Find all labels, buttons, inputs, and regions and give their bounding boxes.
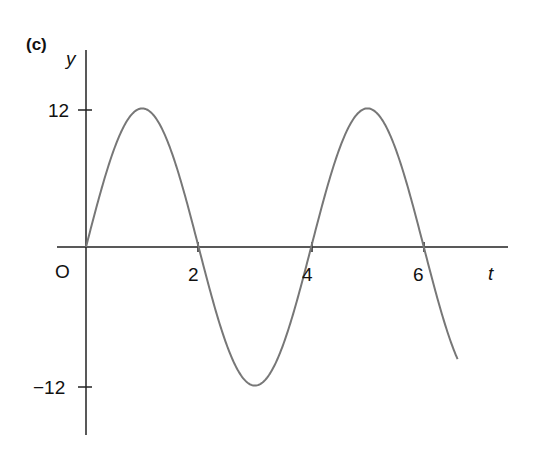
- y-axis-label: y: [64, 48, 77, 69]
- x-tick-label-4: 4: [302, 264, 313, 285]
- x-axis-label: t: [488, 263, 494, 284]
- x-tick-label-2: 2: [188, 264, 199, 285]
- y-tick-label-12: 12: [48, 100, 69, 121]
- chart: (c) y t O 12 −12 2 4 6: [0, 0, 542, 450]
- panel-label: (c): [26, 35, 47, 54]
- x-tick-label-6: 6: [413, 264, 424, 285]
- y-tick-label-neg12: −12: [33, 377, 65, 398]
- origin-label: O: [55, 261, 70, 282]
